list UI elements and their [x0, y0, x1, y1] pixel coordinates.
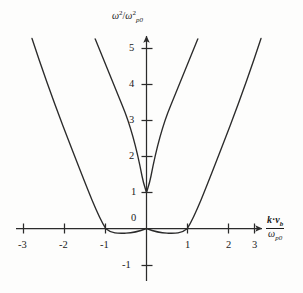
xtick-label-neg3: -3 [18, 240, 27, 251]
xtick-label-neg2: -2 [59, 240, 68, 251]
curve-right-negative-lobe [147, 229, 188, 234]
y-axis-denominator-subscript: p0 [136, 16, 143, 24]
x-axis-numerator: k·vb [266, 215, 284, 229]
ytick-label-2: 2 [129, 151, 134, 162]
xtick-label-2: 2 [226, 240, 231, 251]
xtick-label-0: 0 [131, 213, 136, 224]
xtick-label-3: 3 [252, 240, 257, 251]
xtick-label-neg1: -1 [100, 240, 109, 251]
y-axis-label: ω2/ω2p0 [112, 10, 143, 25]
ytick-label-5: 5 [129, 43, 134, 54]
ytick-label-neg1: -1 [122, 260, 131, 271]
plot-canvas [0, 0, 303, 293]
curve-right-outer-branch [188, 39, 262, 229]
x-axis-label: k·vb ωp0 [266, 215, 284, 243]
x-axis-denominator: ωp0 [266, 229, 284, 242]
xtick-label-1: 1 [185, 240, 190, 251]
ytick-label-4: 4 [129, 79, 134, 90]
curve-left-outer-branch [32, 39, 106, 229]
ytick-label-1: 1 [131, 187, 136, 198]
x-axis-v-subscript: b [280, 220, 284, 228]
curve-left-negative-lobe [106, 229, 147, 234]
x-axis-omega-subscript: p0 [275, 234, 282, 242]
x-axis-fraction: k·vb ωp0 [266, 215, 284, 243]
figure-container: -3 -2 -1 0 1 2 3 5 4 3 2 1 -1 ω2/ω2p0 k·… [0, 0, 303, 293]
y-axis-omega-numerator: ω [112, 10, 119, 21]
ytick-label-3: 3 [129, 115, 134, 126]
